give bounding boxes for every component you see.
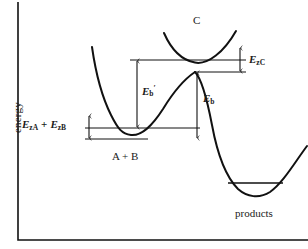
complex-label: C [193,15,200,26]
barrier-prime-label: Eb′ [142,85,156,98]
potential-curves [92,31,307,196]
complex-parabola-curve [164,31,236,63]
zero-point-reactants-operator: + [38,118,50,130]
zero-point-reactants-symbol-2: E [50,118,57,130]
barrier-prime-mark: ′ [154,84,156,93]
dimension-arrows [89,48,240,138]
zero-point-reactants-subscript-1: zA [29,123,38,132]
zero-point-complex-label: EzC [249,54,265,66]
energy-diagram-figure: energy C A + B products Eb′ Eb EzA+EzB E… [0,0,308,249]
zero-point-reactants-label: EzA+EzB [22,119,66,131]
reactants-label: A + B [112,151,138,162]
barrier-label: Eb [203,93,215,105]
products-label: products [235,208,273,219]
barrier-to-products-curve [195,72,307,196]
barrier-subscript: b [210,97,214,106]
zero-point-complex-subscript: zC [256,58,265,67]
zero-point-reactants-subscript-2: zB [58,123,66,132]
